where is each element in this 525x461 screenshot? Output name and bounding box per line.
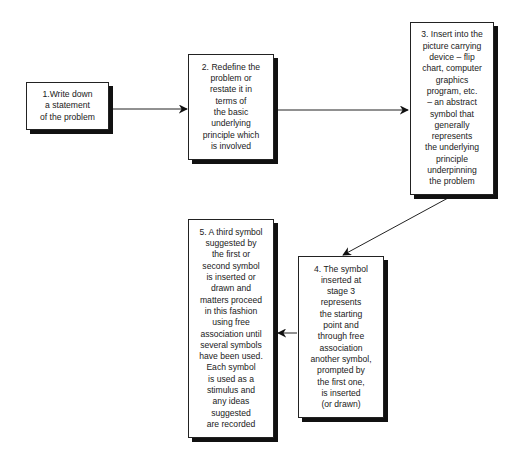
step-2-text: 2. Redefine the problem or restate it in… — [202, 62, 260, 152]
arrow-step3-to-step4 — [343, 198, 448, 255]
step-5-box: 5. A third symbol suggested by the first… — [188, 219, 274, 438]
step-2-box: 2. Redefine the problem or restate it in… — [188, 54, 274, 160]
step-4-text: 4. The symbol inserted at stage 3 repres… — [310, 264, 371, 411]
step-4-box: 4. The symbol inserted at stage 3 repres… — [298, 256, 384, 418]
step-1-box: 1.Write down a statement of the problem — [26, 82, 109, 130]
step-5-text: 5. A third symbol suggested by the first… — [199, 227, 263, 430]
step-3-text: 3. Insert into the picture carrying devi… — [421, 29, 483, 187]
step-3-box: 3. Insert into the picture carrying devi… — [410, 22, 494, 195]
step-1-text: 1.Write down a statement of the problem — [40, 89, 95, 123]
